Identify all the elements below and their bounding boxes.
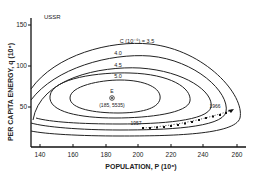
x-axis-title: POPULATION, P (10⁶): [105, 163, 176, 171]
svg-text:(185, 5535): (185, 5535): [99, 102, 125, 108]
svg-text:C (10⁻⁶) = 3.5: C (10⁻⁶) = 3.5: [120, 38, 154, 44]
svg-text:4.5: 4.5: [114, 62, 122, 68]
svg-text:50: 50: [20, 103, 28, 110]
svg-text:260: 260: [232, 151, 243, 158]
svg-text:4.0: 4.0: [114, 50, 122, 56]
chart-title: USSR: [44, 14, 61, 20]
svg-text:1957: 1957: [130, 120, 141, 126]
svg-text:180: 180: [101, 151, 112, 158]
svg-text:150: 150: [16, 21, 27, 28]
x-tick-labels: 140 160 180 200 220 240 260: [35, 151, 243, 158]
optimum-point: E (185, 5535): [99, 88, 125, 108]
y-axis-title: PER CAPITA ENERGY, q (10⁶): [7, 43, 15, 141]
svg-text:1966: 1966: [209, 103, 220, 109]
svg-text:140: 140: [35, 151, 46, 158]
svg-text:240: 240: [198, 151, 209, 158]
y-tick-labels: 150 100 50: [16, 21, 27, 110]
svg-text:220: 220: [166, 151, 177, 158]
svg-text:200: 200: [133, 151, 144, 158]
svg-text:100: 100: [16, 62, 27, 69]
svg-text:160: 160: [68, 151, 79, 158]
contour-4.0: [31, 56, 226, 130]
svg-text:5.0: 5.0: [114, 73, 122, 79]
trajectory: 1957 1966: [130, 103, 234, 129]
svg-text:E: E: [110, 88, 114, 94]
chart-canvas: 150 100 50 140 160 180 200 220 240 260 P…: [0, 0, 254, 174]
contour-5.5: [70, 80, 160, 113]
